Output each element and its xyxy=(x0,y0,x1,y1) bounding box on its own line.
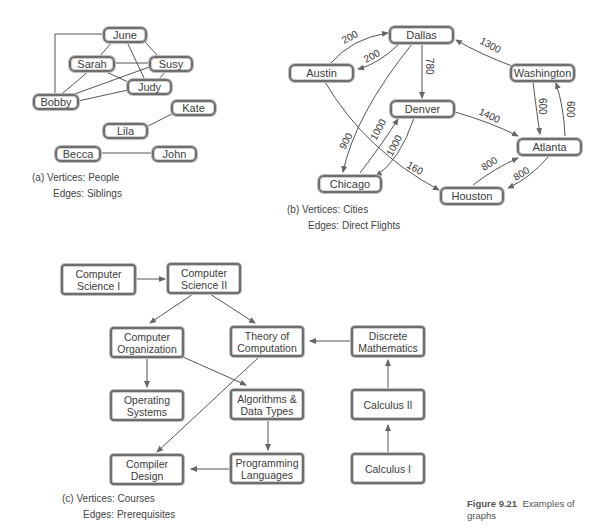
node-dallas: Dallas xyxy=(389,26,454,44)
figure-caption: Figure 9.21 Examples of graphs xyxy=(467,498,597,522)
label-austin-houston: 160 xyxy=(405,159,425,177)
node-bobby: Bobby xyxy=(33,94,79,110)
caption-c-vertices: Vertices: Courses xyxy=(76,493,154,504)
node-computer-organization: Computer Organization xyxy=(110,327,184,358)
caption-b: (b) Vertices: Cities Edges: Direct Fligh… xyxy=(287,202,400,234)
node-discrete-mathematics: Discrete Mathematics xyxy=(351,326,425,357)
node-computer-science-2: Computer Science II xyxy=(167,263,241,294)
label-washington-dallas: 1300 xyxy=(478,35,503,55)
label-austin-dallas: 200 xyxy=(340,28,360,46)
node-theory-of-computation: Theory of Computation xyxy=(230,326,304,357)
node-atlanta: Atlanta xyxy=(517,138,582,156)
node-lila: Lila xyxy=(103,123,148,139)
node-algorithms-data-types: Algorithms & Data Types xyxy=(230,389,304,420)
caption-a-vertices: Vertices: People xyxy=(47,172,119,183)
node-houston: Houston xyxy=(440,187,504,205)
node-june: June xyxy=(103,27,147,43)
label-washington-atlanta: 600 xyxy=(537,98,548,115)
node-austin: Austin xyxy=(289,64,354,82)
node-computer-science-1: Computer Science I xyxy=(61,264,136,295)
node-kate: Kate xyxy=(171,100,216,116)
node-programming-languages: Programming Languages xyxy=(230,453,304,484)
figure-9-21: 200 200 780 1300 900 1000 1000 160 1400 … xyxy=(0,0,614,529)
caption-a-edges: Edges: Siblings xyxy=(32,186,122,202)
caption-c: (c) Vertices: Courses Edges: Prerequisit… xyxy=(62,491,175,523)
caption-a-letter: (a) xyxy=(32,172,44,183)
caption-c-letter: (c) xyxy=(62,493,74,504)
label-dallas-denver: 780 xyxy=(424,58,435,75)
label-denver-atlanta: 1400 xyxy=(477,106,502,126)
caption-b-letter: (b) xyxy=(287,204,299,215)
node-compiler-design: Compiler Design xyxy=(110,454,184,485)
caption-a: (a) Vertices: People Edges: Siblings xyxy=(32,170,122,202)
node-john: John xyxy=(152,146,197,162)
figure-number: Figure 9.21 xyxy=(467,498,517,509)
node-washington: Washington xyxy=(510,64,575,82)
label-dallas-chicago: 900 xyxy=(337,131,355,151)
node-sarah: Sarah xyxy=(69,56,115,72)
node-becca: Becca xyxy=(55,146,101,162)
label-dallas-austin: 200 xyxy=(362,47,382,65)
label-houston-atlanta: 800 xyxy=(479,154,499,172)
graph-c-edges xyxy=(136,279,388,469)
node-operating-systems: Operating Systems xyxy=(110,390,184,421)
node-calculus-2: Calculus II xyxy=(351,389,425,420)
caption-b-vertices: Vertices: Cities xyxy=(302,204,368,215)
node-denver: Denver xyxy=(390,100,455,118)
caption-b-edges: Edges: Direct Flights xyxy=(287,218,400,234)
node-calculus-1: Calculus I xyxy=(351,453,425,484)
node-judy: Judy xyxy=(127,79,172,95)
label-atlanta-houston: 800 xyxy=(511,164,531,182)
node-chicago: Chicago xyxy=(318,175,382,193)
label-atlanta-washington: 600 xyxy=(565,101,576,118)
caption-c-edges: Edges: Prerequisites xyxy=(62,507,175,523)
node-susy: Susy xyxy=(149,56,193,72)
graph-b-edge-labels: 200 200 780 1300 900 1000 1000 160 1400 … xyxy=(337,28,576,183)
